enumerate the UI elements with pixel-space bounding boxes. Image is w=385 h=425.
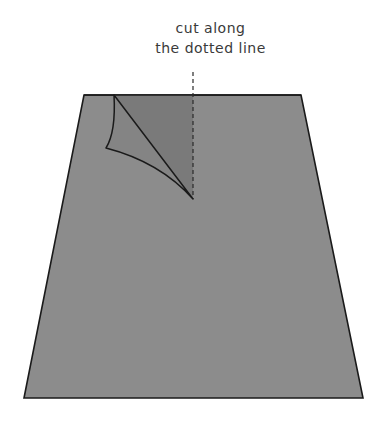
trapezoid-paper (24, 95, 363, 398)
paper-diagram (0, 0, 385, 425)
